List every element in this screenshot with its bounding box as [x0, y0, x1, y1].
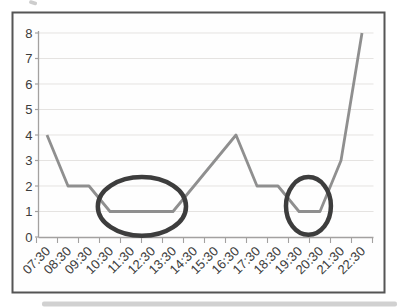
line-chart: 01234567807:3008:3009:3010:3011:3012:301…: [0, 0, 397, 307]
y-tick-label-6: 6: [25, 77, 32, 92]
scanned-chart-page: 01234567807:3008:3009:3010:3011:3012:301…: [0, 0, 397, 307]
y-tick-label-1: 1: [25, 204, 32, 219]
y-tick-label-2: 2: [25, 179, 32, 194]
y-tick-label-0: 0: [25, 230, 32, 245]
y-tick-label-4: 4: [25, 128, 32, 143]
y-tick-label-7: 7: [25, 51, 32, 66]
scan-artifact: [29, 0, 38, 6]
page-bottom-shadow: [42, 302, 397, 307]
y-tick-label-8: 8: [25, 26, 32, 41]
y-tick-label-3: 3: [25, 153, 32, 168]
y-tick-label-5: 5: [25, 102, 32, 117]
